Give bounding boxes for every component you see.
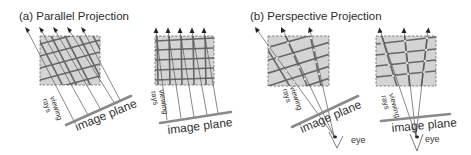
arrow-up-icon: [81, 27, 86, 33]
arrow-up-icon: [154, 28, 159, 34]
eye-icon: [329, 132, 343, 148]
image-plane-label: image plane: [73, 96, 139, 134]
rays-label: viewing rays: [379, 92, 402, 123]
ray-arrowheads: [25, 27, 86, 33]
arrow-up-icon: [190, 28, 195, 34]
panel-b: (b) Perspective Projection: [250, 10, 458, 151]
arrow-up-icon: [166, 28, 171, 34]
arrow-up-icon: [402, 28, 407, 34]
ray-arrowheads: [154, 28, 207, 34]
eye-icon: [410, 134, 423, 151]
diagram-canvas: (a) Parallel Projection: [0, 0, 471, 155]
rays-label: viewing rays: [149, 89, 170, 119]
ray-arrowheads: [378, 28, 431, 34]
arrow-up-icon: [378, 28, 383, 34]
panel-a-title: (a) Parallel Projection: [19, 10, 129, 22]
panel-b-title: (b) Perspective Projection: [250, 10, 382, 22]
arrow-up-icon: [281, 27, 286, 33]
arrow-up-icon: [202, 28, 207, 34]
panel-a: (a) Parallel Projection: [19, 10, 234, 137]
arrow-up-icon: [53, 27, 58, 33]
projection-figure: (a) Parallel Projection: [0, 0, 471, 155]
image-plane-label: image plane: [298, 97, 364, 136]
eye-label: eye: [425, 134, 440, 144]
arrow-up-icon: [255, 27, 260, 33]
subfigure-a-orthogonal: viewing rays image plane: [149, 28, 233, 137]
image-plane-label: image plane: [167, 115, 234, 137]
arrow-up-icon: [426, 28, 431, 34]
rays-label: viewing rays: [40, 95, 65, 126]
subfigure-b-oblique: viewing rays image plane eye: [255, 27, 366, 148]
subfigure-b-orthogonal: viewing rays image plane eye: [376, 28, 458, 152]
arrow-up-icon: [25, 27, 30, 33]
rays-label: viewing rays: [280, 85, 305, 116]
arrow-up-icon: [67, 27, 72, 33]
subfigure-a-oblique: viewing rays image plane: [25, 27, 139, 134]
eye-label: eye: [351, 135, 366, 145]
arrow-up-icon: [39, 27, 44, 33]
arrow-up-icon: [178, 28, 183, 34]
